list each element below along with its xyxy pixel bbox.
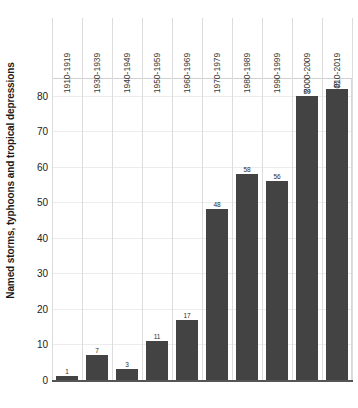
bar-column-1970-1979[interactable]: 1970-197948 <box>202 18 232 381</box>
bar[interactable] <box>236 174 258 380</box>
bar-slot: 3 <box>112 77 142 380</box>
x-tick-label: 2010-2019 <box>322 18 352 78</box>
bar[interactable] <box>296 96 318 380</box>
bar-slot: 82 <box>322 77 352 380</box>
x-tick-label: 1990-1999 <box>262 18 292 78</box>
bar-value-label: 58 <box>243 166 250 173</box>
bar-slot: 11 <box>142 77 172 380</box>
bar[interactable] <box>86 355 108 380</box>
y-tick-label: 70 <box>8 126 48 137</box>
bar-value-label: 48 <box>213 201 220 208</box>
category-separator <box>352 18 353 381</box>
bar-column-1990-1999[interactable]: 1990-199956 <box>262 18 292 381</box>
bar-column-1960-1969[interactable]: 1960-196917 <box>172 18 202 381</box>
bar-column-1930-1939[interactable]: 1930-19397 <box>82 18 112 381</box>
bar-value-label: 82 <box>333 81 340 88</box>
bar-slot: 7 <box>82 77 112 380</box>
bar[interactable] <box>326 89 348 380</box>
y-tick-label: 60 <box>8 161 48 172</box>
x-axis-baseline <box>52 380 353 382</box>
bar-slot: 48 <box>202 77 232 380</box>
y-tick-label: 40 <box>8 232 48 243</box>
bar-value-label: 80 <box>303 88 310 95</box>
bar-slot: 80 <box>292 77 322 380</box>
bar[interactable] <box>146 341 168 380</box>
y-tick-label: 0 <box>8 375 48 386</box>
bar-slot: 1 <box>52 77 82 380</box>
bar-column-1910-1919[interactable]: 1910-19191 <box>52 18 82 381</box>
bar-column-2010-2019[interactable]: 2010-201982 <box>322 18 352 381</box>
bar-column-1980-1989[interactable]: 1980-198958 <box>232 18 262 381</box>
bar[interactable] <box>266 181 288 380</box>
bar-slot: 58 <box>232 77 262 380</box>
bar-value-label: 11 <box>154 333 161 340</box>
x-tick-label: 1910-1919 <box>52 18 82 78</box>
x-tick-label: 1940-1949 <box>112 18 142 78</box>
bar-value-label: 56 <box>273 173 280 180</box>
bar-value-label: 3 <box>125 361 129 368</box>
y-tick-label: 20 <box>8 303 48 314</box>
bar-chart: Named storms, typhoons and tropical depr… <box>0 0 358 408</box>
x-tick-label: 1980-1989 <box>232 18 262 78</box>
bar-column-1950-1959[interactable]: 1950-195911 <box>142 18 172 381</box>
x-tick-label: 1970-1979 <box>202 18 232 78</box>
x-tick-label: 1950-1959 <box>142 18 172 78</box>
x-tick-label: 1930-1939 <box>82 18 112 78</box>
bar[interactable] <box>176 320 198 380</box>
bar-value-label: 17 <box>183 312 190 319</box>
y-tick-label: 10 <box>8 339 48 350</box>
x-tick-label: 2000-2009 <box>292 18 322 78</box>
bar-value-label: 1 <box>65 368 69 375</box>
bar-slot: 56 <box>262 77 292 380</box>
bar-column-1940-1949[interactable]: 1940-19493 <box>112 18 142 381</box>
x-tick-label: 1960-1969 <box>172 18 202 78</box>
bar-slot: 17 <box>172 77 202 380</box>
bar-column-2000-2009[interactable]: 2000-200980 <box>292 18 322 381</box>
y-tick-label: 50 <box>8 197 48 208</box>
bar[interactable] <box>206 209 228 380</box>
y-tick-label: 30 <box>8 268 48 279</box>
y-tick-label: 80 <box>8 90 48 101</box>
bar[interactable] <box>116 369 138 380</box>
bar-value-label: 7 <box>95 347 99 354</box>
